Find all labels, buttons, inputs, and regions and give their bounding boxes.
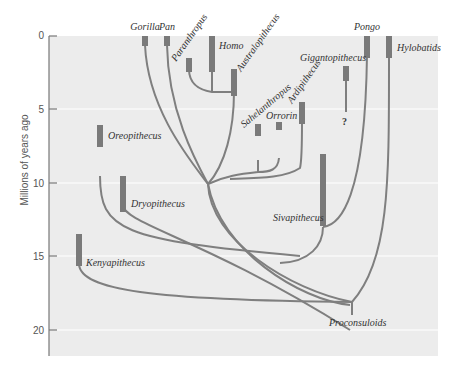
y-axis-title: Millions of years ago: [19, 114, 30, 206]
label-homo: Homo: [218, 40, 243, 51]
bar-paranthropus: [186, 58, 192, 72]
tick-10: 10: [33, 178, 45, 189]
label-hylobatids: Hylobatids: [396, 42, 441, 53]
bar-dryopithecus: [120, 176, 126, 212]
bar-gorilla: [142, 36, 148, 46]
tick-15: 15: [33, 251, 45, 262]
bar-oreopithecus: [97, 125, 103, 147]
label-dryopithecus: Dryopithecus: [130, 198, 185, 209]
label-unknown: ?: [342, 116, 347, 127]
label-proconsuloids: Proconsuloids: [328, 317, 387, 328]
label-pongo: Pongo: [353, 21, 380, 32]
bar-sahelanthropus: [255, 124, 261, 136]
bar-homo: [209, 36, 215, 72]
label-sivapithecus: Sivapithecus: [273, 212, 324, 223]
phylogeny-diagram: 0 5 10 15 20 Millions of years ago: [0, 0, 461, 371]
label-oreopithecus: Oreopithecus: [108, 130, 162, 141]
tick-0: 0: [38, 30, 44, 41]
bar-gigantopithecus: [343, 66, 349, 81]
bar-hylobatids: [386, 36, 392, 58]
label-orrorin: Orrorin: [266, 110, 297, 121]
tick-5: 5: [38, 104, 44, 115]
bar-pan: [164, 36, 170, 46]
label-kenyapithecus: Kenyapithecus: [85, 257, 145, 268]
bar-orrorin: [276, 122, 282, 130]
bar-australopithecus: [231, 69, 237, 96]
plot-area: [49, 36, 438, 356]
bar-ardipithecus: [299, 102, 305, 124]
tick-20: 20: [33, 325, 45, 336]
label-gorilla: Gorilla: [130, 21, 159, 32]
bar-kenyapithecus: [76, 234, 82, 266]
label-pan: Pan: [158, 21, 175, 32]
